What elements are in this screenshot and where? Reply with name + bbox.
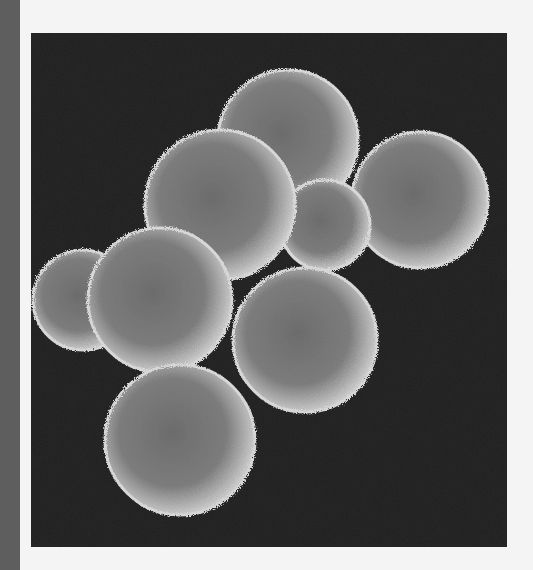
cell-cluster	[31, 33, 507, 547]
micrograph-image	[31, 33, 507, 547]
left-edge-bar	[0, 0, 20, 570]
